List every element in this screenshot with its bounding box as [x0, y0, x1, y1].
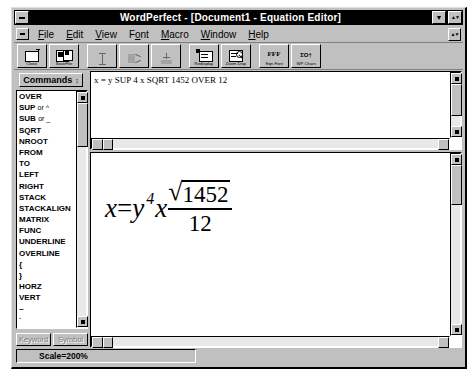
scroll-right-button[interactable] — [438, 139, 449, 150]
command-item[interactable]: RIGHT — [17, 181, 76, 192]
fraction-numerator: √ 1452 — [168, 179, 232, 208]
scrollbar-thumb[interactable] — [103, 139, 113, 150]
edit-pane-vscrollbar[interactable] — [450, 72, 461, 138]
equation-edit-pane: x = y SUP 4 x SQRT 1452 OVER 12 — [90, 71, 462, 150]
rendered-equation: x = y 4 x √ 1452 12 — [105, 179, 232, 237]
command-item[interactable]: STACK — [17, 192, 76, 203]
chevron-updown-icon — [75, 77, 79, 84]
scroll-right-button[interactable] — [438, 337, 449, 348]
scroll-left-button[interactable] — [92, 139, 103, 150]
scrollbar-trough[interactable] — [103, 139, 438, 148]
keyword-button[interactable]: Keyword — [16, 333, 51, 346]
menu-bar: File Edit View Font Macro Window Help — [14, 26, 463, 43]
scrollbar-thumb[interactable] — [451, 84, 462, 116]
command-item[interactable]: VERT — [17, 292, 76, 303]
equation-edit-area[interactable]: x = y SUP 4 x SQRT 1452 OVER 12 — [91, 72, 450, 138]
command-name: OVERLINE — [19, 249, 60, 258]
command-alt: or ^ — [38, 104, 49, 111]
command-item[interactable]: SUB or _ — [17, 113, 76, 124]
zoom-display-icon — [228, 49, 245, 62]
command-list-box: OVERSUP or ^SUB or _SQRTNROOTFROMTOLEFTR… — [16, 90, 88, 329]
command-item[interactable]: ~ — [17, 304, 76, 315]
edit-pane-hscrollbar[interactable] — [91, 138, 450, 149]
document-restore-button[interactable] — [448, 28, 461, 41]
command-item[interactable]: } — [17, 270, 76, 281]
close-doc-icon — [24, 49, 41, 62]
title-bar: WordPerfect - [Document1 - Equation Edit… — [14, 10, 463, 25]
scrollbar-trough[interactable] — [103, 337, 438, 346]
equation-multiplier: x — [155, 193, 167, 224]
redisplay-icon — [196, 49, 213, 62]
display-pane-vscrollbar[interactable] — [450, 153, 461, 336]
scrollbar-thumb[interactable] — [77, 103, 88, 147]
command-item[interactable]: OVER — [17, 91, 76, 102]
command-item[interactable]: NROOT — [17, 136, 76, 147]
commands-selector[interactable]: Commands — [19, 73, 83, 87]
toolbar-button-zoom-display[interactable]: Zoom Disp — [221, 44, 251, 68]
command-item[interactable]: { — [17, 259, 76, 270]
toolbar-label: Zoom Disp — [226, 61, 247, 66]
command-item[interactable]: HORZ — [17, 281, 76, 292]
menu-help[interactable]: Help — [248, 29, 269, 40]
scroll-down-button[interactable] — [451, 126, 462, 137]
menu-view[interactable]: View — [95, 29, 117, 40]
application-window: WordPerfect - [Document1 - Equation Edit… — [11, 7, 467, 369]
command-item[interactable]: MATRIX — [17, 214, 76, 225]
command-name: ` — [19, 316, 22, 325]
scrollbar-thumb[interactable] — [451, 165, 462, 205]
command-item[interactable]: STACKALIGN — [17, 203, 76, 214]
command-item[interactable]: LEFT — [17, 169, 76, 180]
command-name: SQRT — [19, 126, 41, 135]
command-name: FROM — [19, 148, 43, 157]
menu-edit[interactable]: Edit — [66, 29, 83, 40]
toolbar-button-wp-chars[interactable]: ΣO† WP Chars — [291, 44, 321, 68]
document-system-menu-icon[interactable] — [16, 28, 29, 40]
menu-window[interactable]: Window — [201, 29, 237, 40]
scroll-left-button[interactable] — [92, 337, 103, 348]
command-item[interactable]: BINOM — [17, 326, 76, 328]
equation-base: y — [132, 193, 144, 224]
equation-display-area[interactable]: x = y 4 x √ 1452 12 — [91, 153, 450, 336]
command-name: UNDERLINE — [19, 237, 66, 246]
command-list-scrollbar[interactable] — [76, 91, 87, 328]
scroll-down-button[interactable] — [451, 324, 462, 335]
display-pane-hscrollbar[interactable] — [91, 336, 450, 347]
save-file-icon — [56, 49, 73, 62]
scroll-up-button[interactable] — [77, 92, 88, 103]
command-item[interactable]: OVERLINE — [17, 248, 76, 259]
toolbar-label: Redisplay — [195, 61, 214, 66]
paste-icon — [158, 53, 175, 66]
menu-font[interactable]: Font — [129, 29, 149, 40]
toolbar-button-close[interactable]: Close — [17, 44, 47, 68]
command-item[interactable]: FUNC — [17, 225, 76, 236]
command-list[interactable]: OVERSUP or ^SUB or _SQRTNROOTFROMTOLEFTR… — [17, 91, 76, 328]
menu-items: File Edit View Font Macro Window Help — [38, 29, 269, 40]
toolbar-button-insert[interactable] — [87, 44, 117, 68]
command-item[interactable]: FROM — [17, 147, 76, 158]
command-item[interactable]: TO — [17, 158, 76, 169]
toolbar-button-cut[interactable] — [119, 44, 149, 68]
scroll-down-button[interactable] — [77, 316, 88, 327]
toolbar-button-paste[interactable] — [151, 44, 181, 68]
menu-macro[interactable]: Macro — [161, 29, 189, 40]
scroll-up-button[interactable] — [451, 73, 462, 84]
command-item[interactable]: SUP or ^ — [17, 102, 76, 113]
equation-source-text[interactable]: x = y SUP 4 x SQRT 1452 OVER 12 — [91, 72, 450, 85]
radical-group: √ 1452 — [168, 179, 230, 207]
scroll-up-button[interactable] — [451, 154, 462, 165]
equation-display-pane: x = y 4 x √ 1452 12 — [90, 152, 462, 348]
symbol-button[interactable]: Symbol — [53, 333, 88, 346]
command-alt: or _ — [38, 115, 50, 122]
command-item[interactable]: UNDERLINE — [17, 236, 76, 247]
menu-file[interactable]: File — [38, 29, 54, 40]
toolbar-button-savefile[interactable]: SaveFile — [49, 44, 79, 68]
minimize-button[interactable] — [432, 11, 446, 24]
system-menu-icon[interactable] — [15, 11, 29, 24]
command-item[interactable]: SQRT — [17, 125, 76, 136]
toolbar-button-redisplay[interactable]: Redisplay — [189, 44, 219, 68]
command-name: TO — [19, 159, 30, 168]
toolbar-button-eqn-font[interactable]: FFF Eqn Font — [259, 44, 289, 68]
scrollbar-thumb[interactable] — [103, 337, 113, 348]
command-item[interactable]: ` — [17, 315, 76, 326]
maximize-button[interactable] — [448, 11, 462, 24]
